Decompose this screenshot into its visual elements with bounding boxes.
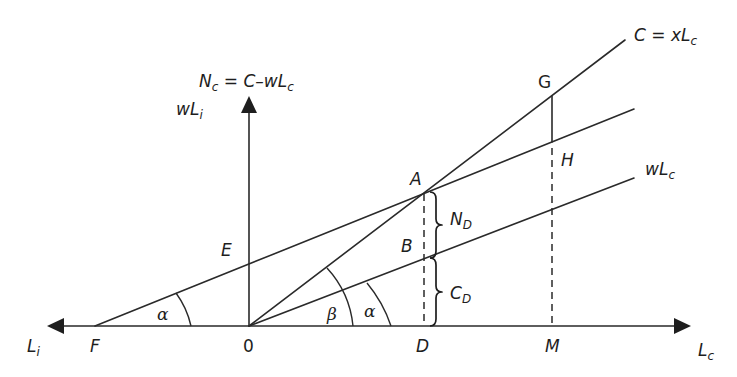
up-arrowhead-icon bbox=[241, 96, 257, 113]
right-arrowhead-icon bbox=[674, 318, 691, 334]
point-a-label: A bbox=[409, 169, 422, 189]
beta-label-at-o: β bbox=[326, 304, 337, 324]
point-h-label: H bbox=[561, 150, 574, 170]
nc-axis-label: Nc = C–wLc bbox=[199, 71, 294, 94]
point-b-label: B bbox=[401, 236, 413, 256]
wlc-line bbox=[249, 178, 634, 326]
point-origin-label: 0 bbox=[243, 336, 254, 356]
alpha-arc-at-f bbox=[176, 293, 191, 326]
wlc-line-label: wLc bbox=[645, 159, 675, 182]
nd-brace bbox=[430, 192, 442, 258]
vertical-axis bbox=[241, 96, 257, 326]
cd-label: CD bbox=[450, 283, 471, 306]
point-d-label: D bbox=[416, 336, 429, 356]
point-e-label: E bbox=[221, 240, 232, 260]
point-m-label: M bbox=[545, 336, 560, 356]
left-arrowhead-icon bbox=[47, 318, 64, 334]
nd-label: ND bbox=[450, 209, 472, 232]
economics-diagram: Li Lc Nc = C–wLc wLi C = xLc wLc F 0 D M… bbox=[0, 0, 737, 377]
alpha-label-at-f: α bbox=[157, 304, 169, 324]
point-g-label: G bbox=[538, 72, 551, 92]
wli-label: wLi bbox=[176, 99, 203, 122]
alpha-label-at-o: α bbox=[364, 301, 376, 321]
li-axis-label: Li bbox=[27, 336, 40, 359]
point-f-label: F bbox=[90, 336, 100, 356]
cd-brace bbox=[430, 258, 442, 326]
consumption-line bbox=[249, 40, 625, 326]
consumption-line-label: C = xLc bbox=[634, 25, 697, 48]
lc-axis-label: Lc bbox=[698, 340, 714, 363]
